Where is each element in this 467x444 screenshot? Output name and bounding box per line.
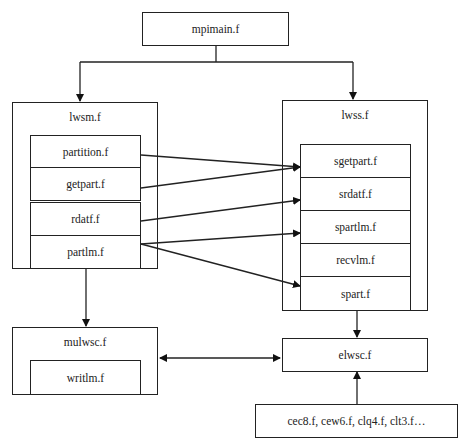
mpimain-label: mpimain.f	[192, 23, 240, 35]
elwsc-label: elwsc.f	[339, 349, 372, 361]
lwss-label: lwss.f	[283, 109, 427, 121]
srdatf-module: srdatf.f	[300, 177, 411, 211]
spart-module: spart.f	[300, 276, 411, 311]
rdatf-module: rdatf.f	[30, 202, 141, 236]
elwsc-node: elwsc.f	[282, 338, 428, 372]
diagram-canvas: mpimain.f lwsm.f partition.f getpart.f r…	[0, 0, 467, 444]
recvlm-module: recvlm.f	[300, 243, 411, 277]
element-files-node: cec8.f, cew6.f, clq4.f, clt3.f…	[255, 404, 458, 438]
getpart-module: getpart.f	[30, 167, 141, 201]
spartlm-module: spartlm.f	[300, 210, 411, 244]
partlm-module: partlm.f	[30, 235, 141, 269]
partition-module: partition.f	[30, 135, 141, 168]
lwsm-label: lwsm.f	[13, 111, 157, 123]
mpimain-node: mpimain.f	[142, 12, 289, 46]
sgetpart-module: sgetpart.f	[300, 144, 411, 178]
writlm-module: writlm.f	[30, 360, 141, 395]
element-files-label: cec8.f, cew6.f, clq4.f, clt3.f…	[288, 415, 426, 427]
mulwsc-label: mulwsc.f	[13, 336, 157, 348]
